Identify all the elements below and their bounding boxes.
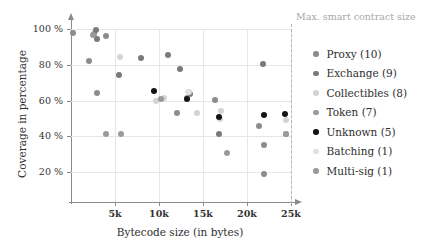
max-contract-size-line [291,24,292,204]
x-axis-tick [115,202,116,206]
legend-item-collectibles[interactable]: Collectibles (8) [313,83,441,103]
x-axis-tick [203,202,204,206]
max-contract-size-label: Max. smart contract size [296,11,416,22]
data-point [184,96,190,102]
data-point [218,108,224,114]
legend-item-label: Unknown (5) [327,126,396,138]
legend-item-exchange[interactable]: Exchange (9) [313,64,441,84]
data-point [158,96,164,102]
data-point [261,112,267,118]
y-axis-tick-label: 40 % [0,130,63,141]
data-point [261,171,267,177]
data-point [194,110,200,116]
legend-marker-icon [313,149,319,155]
y-axis-arrow-icon [68,13,74,20]
legend-item-unknown[interactable]: Unknown (5) [313,122,441,142]
legend-item-label: Proxy (10) [327,48,382,60]
legend-marker-icon [313,110,319,116]
legend-item-label: Exchange (9) [327,67,397,79]
x-axis-arrow-icon [295,199,302,205]
legend-item-token[interactable]: Token (7) [313,103,441,123]
legend-item-multi-sig[interactable]: Multi-sig (1) [313,161,441,181]
data-point [212,97,218,103]
gridline-horizontal [71,172,292,173]
chart-legend: Proxy (10)Exchange (9)Collectibles (8)To… [313,44,441,181]
x-axis-tick [159,202,160,206]
legend-marker-icon [313,129,319,135]
x-axis-tick-label: 10k [139,208,179,219]
data-point [138,55,144,61]
data-point [103,33,109,39]
y-axis-line [71,20,72,204]
y-axis-tick-label: 20 % [0,166,63,177]
legend-item-proxy[interactable]: Proxy (10) [313,44,441,64]
data-point [94,90,100,96]
data-point [261,142,267,148]
y-axis-tick [67,136,71,137]
data-point [117,54,123,60]
data-point [177,66,183,72]
legend-marker-icon [313,71,319,77]
x-axis-tick [247,202,248,206]
data-point [165,52,171,58]
gridline-horizontal [71,29,292,30]
data-point [283,117,289,123]
data-point [70,30,76,36]
data-point [224,150,230,156]
legend-item-batching[interactable]: Batching (1) [313,142,441,162]
gridline-vertical [247,29,248,202]
scatter-chart: 20 %40 %60 %80 %100 %5k10k15k20k25k Max.… [0,0,441,252]
data-point [174,110,180,116]
data-point [260,61,266,67]
x-axis-line [69,202,295,203]
y-axis-tick [67,65,71,66]
legend-item-label: Token (7) [327,106,377,118]
y-axis-tick-label: 100 % [0,23,63,34]
y-axis-tick [67,101,71,102]
data-point [256,123,262,129]
y-axis-title: Coverage in percentage [16,34,28,194]
gridline-vertical [159,29,160,202]
data-point [116,72,122,78]
legend-marker-icon [313,51,319,57]
gridline-vertical [115,29,116,202]
y-axis-tick-label: 60 % [0,95,63,106]
x-axis-title: Bytecode size (in bytes) [0,226,360,238]
x-axis-tick-label: 25k [271,208,311,219]
x-axis-tick-label: 5k [95,208,135,219]
legend-item-label: Collectibles (8) [327,87,408,99]
data-point [86,58,92,64]
y-axis-tick [67,172,71,173]
gridline-horizontal [71,101,292,102]
x-axis-tick-label: 15k [183,208,223,219]
y-axis-tick-label: 80 % [0,59,63,70]
data-point [282,111,288,117]
legend-marker-icon [313,90,319,96]
legend-item-label: Batching (1) [327,145,393,157]
x-axis-tick-label: 20k [227,208,267,219]
legend-item-label: Multi-sig (1) [327,165,393,177]
data-point [185,89,191,95]
data-point [151,88,157,94]
gridline-vertical [203,29,204,202]
legend-marker-icon [313,168,319,174]
